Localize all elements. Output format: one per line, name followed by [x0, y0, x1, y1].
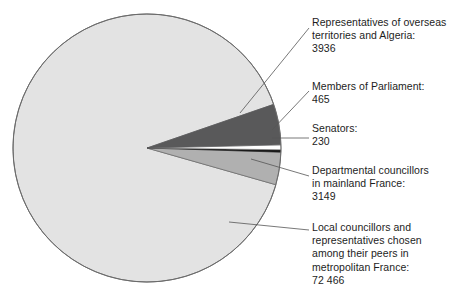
pie-label-members-of-parliament: Members of Parliament: 465: [312, 80, 464, 106]
pie-label-senators: Senators: 230: [312, 122, 464, 148]
pie-label-local-councillors: Local councillors and representatives ch…: [312, 221, 464, 287]
pie-chart: Representatives of overseas territories …: [0, 0, 467, 297]
leader-line-parliament: [272, 91, 309, 130]
pie-label-overseas-territories: Representatives of overseas territories …: [312, 16, 464, 56]
pie-label-departmental-councillors: Departmental councillors in mainland Fra…: [312, 164, 464, 204]
